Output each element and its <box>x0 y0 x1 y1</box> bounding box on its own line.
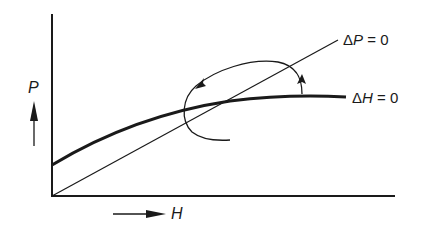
delta-h-zero-label: ΔH = 0 <box>352 90 398 105</box>
delta-h-zero-curve <box>52 96 346 165</box>
h-axis-arrow-icon <box>146 210 166 218</box>
delta-p-zero-label: ΔP = 0 <box>343 32 388 47</box>
delta-p-zero-line <box>52 40 338 196</box>
y-axis-label: P <box>28 80 39 96</box>
delta-p-var: P <box>353 31 363 48</box>
p-axis-arrow-icon <box>30 101 38 121</box>
delta-symbol: Δ <box>352 89 362 106</box>
x-axis-label: H <box>171 206 183 222</box>
delta-h-var: H <box>362 89 373 106</box>
delta-h-eq: = 0 <box>373 89 398 106</box>
delta-symbol: Δ <box>343 31 353 48</box>
delta-p-eq: = 0 <box>363 31 388 48</box>
